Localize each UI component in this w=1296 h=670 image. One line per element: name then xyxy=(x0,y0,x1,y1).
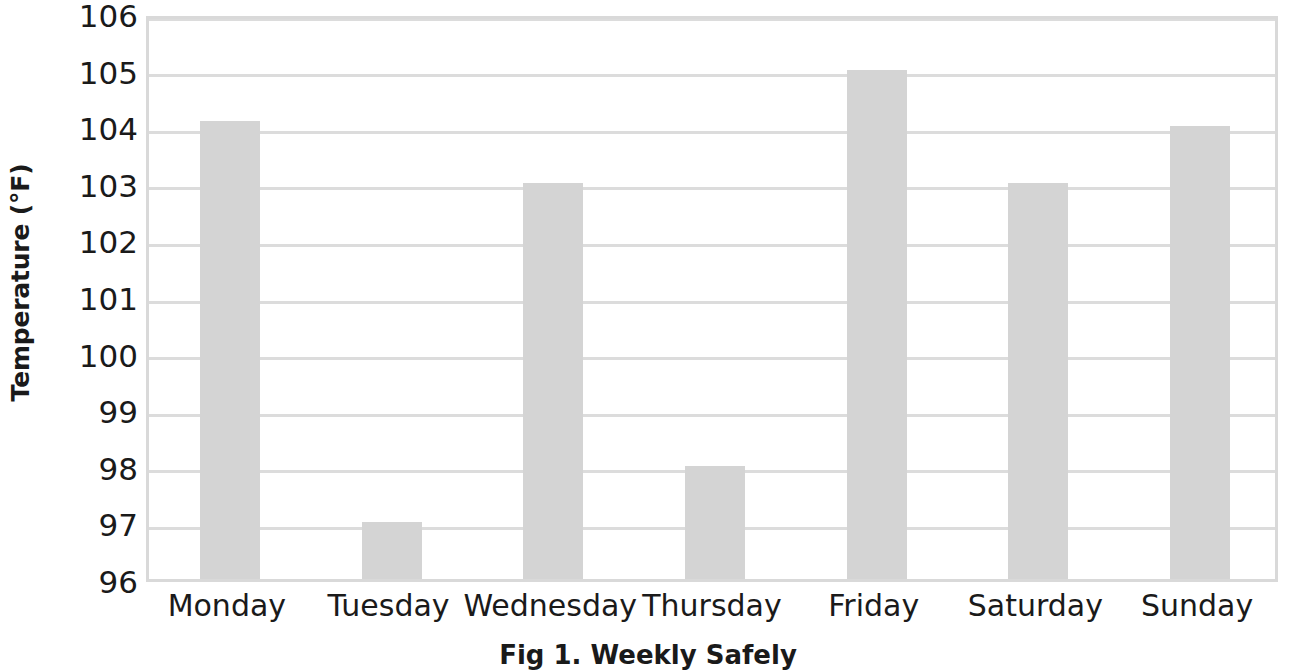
y-axis-tick-label: 96 xyxy=(0,567,138,598)
bars-group xyxy=(149,19,1275,579)
x-axis-tick-label: Wednesday xyxy=(463,586,637,625)
x-axis-tick-label: Friday xyxy=(828,586,919,625)
bar[interactable] xyxy=(1008,183,1068,579)
bar[interactable] xyxy=(362,522,422,579)
y-axis-tick-label: 99 xyxy=(0,397,138,428)
x-axis-tick-label: Sunday xyxy=(1141,586,1253,625)
y-axis-tick-label: 98 xyxy=(0,453,138,484)
y-axis-tick-labels: 10610510410310210110099989796 xyxy=(0,0,138,655)
y-axis-tick-label: 97 xyxy=(0,510,138,541)
y-axis-tick-label: 104 xyxy=(0,114,138,145)
y-axis-tick-label: 100 xyxy=(0,340,138,371)
y-axis-tick-label: 105 xyxy=(0,57,138,88)
y-axis-tick-label: 106 xyxy=(0,1,138,32)
figure-caption: Fig 1. Weekly Safely xyxy=(0,640,1296,670)
bar[interactable] xyxy=(200,121,260,579)
x-axis-tick-labels: MondayTuesdayWednesdayThursdayFridaySatu… xyxy=(146,586,1278,630)
y-axis-tick-label: 102 xyxy=(0,227,138,258)
x-axis-tick-label: Saturday xyxy=(968,586,1103,625)
y-axis-tick-label: 101 xyxy=(0,284,138,315)
bar[interactable] xyxy=(685,466,745,579)
bar[interactable] xyxy=(523,183,583,579)
x-axis-tick-label: Thursday xyxy=(642,586,782,625)
y-axis-tick-label: 103 xyxy=(0,170,138,201)
bar[interactable] xyxy=(847,70,907,579)
x-axis-tick-label: Tuesday xyxy=(328,586,450,625)
x-axis-tick-label: Monday xyxy=(168,586,286,625)
bar[interactable] xyxy=(1170,126,1230,579)
plot-area xyxy=(146,16,1278,582)
